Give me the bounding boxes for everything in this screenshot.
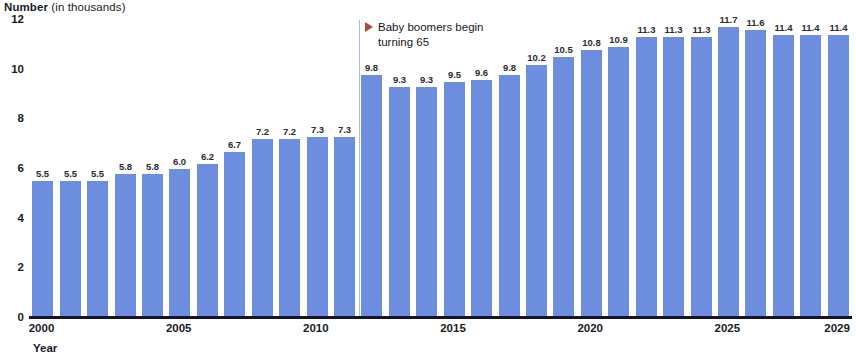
bar (608, 47, 629, 318)
x-axis-baseline (29, 316, 852, 319)
bar (389, 87, 410, 318)
y-tick-label: 10 (0, 64, 24, 76)
bar (663, 37, 684, 318)
y-tick-label: 2 (0, 262, 24, 274)
y-tick-label: 6 (0, 163, 24, 175)
bar-value-label: 7.3 (328, 125, 361, 135)
annotation-line-2: turning 65 (365, 35, 483, 50)
bar (169, 169, 190, 318)
bar (142, 174, 163, 318)
bar-value-label: 11.4 (822, 23, 855, 33)
x-tick-label: 2000 (29, 323, 55, 335)
bar (334, 137, 355, 318)
bar (252, 139, 273, 318)
annotation-line-1: Baby boomers begin (378, 21, 483, 33)
y-axis-title-bold: Number (4, 1, 48, 13)
y-tick-label: 12 (0, 14, 24, 26)
x-tick-label: 2010 (303, 323, 329, 335)
bar (499, 75, 520, 318)
y-tick-label: 8 (0, 113, 24, 125)
bar (279, 139, 300, 318)
x-tick-label: 2015 (440, 323, 466, 335)
bar-chart: Number (in thousands) 024681012 5.55.55.… (0, 0, 856, 359)
bar (60, 181, 81, 318)
bar-value-label: 6.2 (191, 152, 224, 162)
x-tick-label: 2025 (715, 323, 741, 335)
bar-value-label: 11.3 (685, 25, 718, 35)
bar (444, 82, 465, 318)
bar (828, 35, 849, 318)
bar (197, 164, 218, 318)
bar (307, 137, 328, 318)
y-tick-label: 0 (0, 312, 24, 324)
bar-value-label: 9.8 (493, 63, 526, 73)
bar (581, 50, 602, 318)
y-tick-label: 4 (0, 213, 24, 225)
bar (224, 152, 245, 318)
y-axis-title: Number (in thousands) (4, 1, 126, 13)
bar-value-label: 6.7 (218, 140, 251, 150)
bar (800, 35, 821, 318)
bar (553, 57, 574, 318)
bar (115, 174, 136, 318)
bar (773, 35, 794, 318)
bar (718, 27, 739, 318)
bar (87, 181, 108, 318)
bar (691, 37, 712, 318)
x-tick-label: 2029 (824, 323, 850, 335)
bar (526, 65, 547, 318)
bar-value-label: 10.9 (602, 35, 635, 45)
y-axis-title-light: (in thousands) (48, 1, 126, 13)
x-axis-title: Year (33, 343, 57, 355)
triangle-marker-icon (365, 22, 373, 32)
bar (361, 75, 382, 318)
baby-boomers-annotation: Baby boomers begin turning 65 (365, 20, 483, 50)
bar (416, 87, 437, 318)
x-tick-label: 2005 (166, 323, 192, 335)
bar (636, 37, 657, 318)
bar (471, 80, 492, 318)
bar (745, 30, 766, 318)
bar-value-label: 9.8 (355, 63, 388, 73)
bar (32, 181, 53, 318)
x-tick-label: 2020 (577, 323, 603, 335)
